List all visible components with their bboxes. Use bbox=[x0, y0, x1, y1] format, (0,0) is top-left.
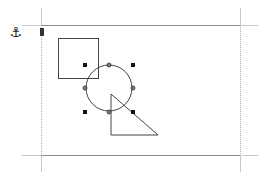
triangle-shape[interactable] bbox=[111, 94, 158, 135]
anchor-icon[interactable]: ⚓ bbox=[9, 24, 23, 40]
glue-point-top[interactable] bbox=[107, 63, 111, 67]
glue-points[interactable] bbox=[83, 63, 135, 114]
document-canvas[interactable]: ⚓ bbox=[0, 0, 271, 173]
glue-point-left[interactable] bbox=[83, 86, 87, 90]
drawing-surface[interactable] bbox=[0, 0, 271, 173]
resize-handle-bottom-right[interactable] bbox=[131, 110, 135, 114]
resize-handle-top-right[interactable] bbox=[131, 63, 135, 67]
glue-point-bottom[interactable] bbox=[107, 110, 111, 114]
circle-shape[interactable] bbox=[86, 65, 132, 111]
text-cursor-marker bbox=[40, 28, 44, 36]
selection-handles[interactable] bbox=[83, 63, 135, 114]
page-boundary bbox=[41, 25, 241, 156]
resize-handle-top-left[interactable] bbox=[83, 63, 87, 67]
glue-point-right[interactable] bbox=[131, 86, 135, 90]
page-crop-marks bbox=[22, 8, 258, 172]
resize-handle-bottom-left[interactable] bbox=[83, 110, 87, 114]
